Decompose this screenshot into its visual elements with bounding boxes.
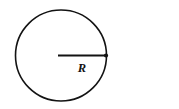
- figure-canvas: R: [0, 0, 179, 109]
- radius-label: R: [77, 61, 86, 75]
- radius-endpoint-dot: [104, 53, 108, 57]
- circle-radius-diagram: R: [0, 0, 179, 109]
